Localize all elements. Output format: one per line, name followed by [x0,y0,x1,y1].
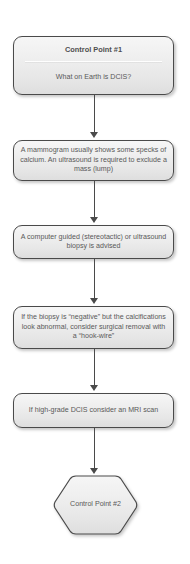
arrow-down-icon [90,217,98,223]
flow-node-text: If high-grade DCIS consider an MRI scan [20,406,167,415]
connector-mammogram-step-to-biopsy-step [94,181,96,219]
arrow-down-icon [90,385,98,391]
flow-node-text: If the biopsy is “negative” but the calc… [20,313,167,341]
flow-node-mammogram-step[interactable]: A mammogram usually shows some specks of… [13,140,174,181]
flow-node-negative-biopsy-step[interactable]: If the biopsy is “negative” but the calc… [13,306,174,349]
flow-node-text: A computer guided (stereotactic) or ultr… [20,233,167,252]
arrow-down-icon [90,298,98,304]
flow-node-text: A mammogram usually shows some specks of… [20,146,167,174]
arrow-down-icon [90,132,98,138]
flow-node-text: What on Earth is DCIS? [14,63,173,94]
flow-node-control-point-1[interactable]: Control Point #1 What on Earth is DCIS? [13,36,174,95]
flow-node-title: Control Point #1 [14,37,173,61]
flow-node-biopsy-step[interactable]: A computer guided (stereotactic) or ultr… [13,225,174,259]
flowchart-canvas: Control Point #1 What on Earth is DCIS? … [0,0,190,564]
flow-node-mri-step[interactable]: If high-grade DCIS consider an MRI scan [13,393,174,428]
connector-negative-biopsy-step-to-mri-step [94,349,96,387]
flow-node-control-point-2[interactable]: Control Point #2 [52,474,139,536]
connector-biopsy-step-to-negative-biopsy-step [94,259,96,300]
connector-mri-step-to-control-point-2 [94,428,96,470]
hexagon-shape-icon [52,474,139,536]
connector-control-point-1-to-mammogram-step [94,95,96,134]
